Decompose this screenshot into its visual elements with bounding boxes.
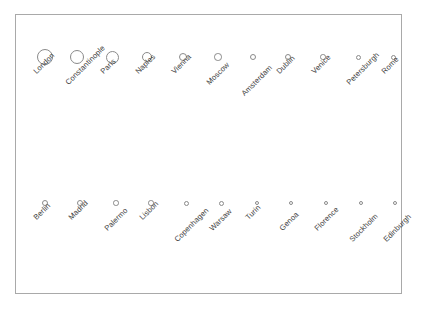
city-label-palermo: Palermo bbox=[103, 207, 129, 233]
city-label-lisbon: Lisbon bbox=[138, 200, 160, 222]
city-label-london: London bbox=[32, 52, 56, 76]
city-label-naples: Naples bbox=[134, 53, 157, 76]
city-label-moscow: Moscow bbox=[205, 61, 230, 86]
city-label-copenhagen: Copenhagen bbox=[173, 207, 210, 244]
city-label-vienna: Vienna bbox=[170, 53, 192, 75]
city-label-genoa: Genoa bbox=[278, 211, 300, 233]
city-label-amsterdam: Amsterdam bbox=[240, 64, 273, 97]
city-label-berlin: Berlin bbox=[32, 202, 52, 222]
labels-layer: LondonConstantinopleParisNaplesViennaMos… bbox=[16, 15, 401, 293]
city-label-dublin: Dublin bbox=[275, 54, 296, 75]
chart-canvas: LondonConstantinopleParisNaplesViennaMos… bbox=[0, 0, 422, 311]
city-label-stockholm: Stockholm bbox=[348, 212, 379, 243]
city-label-venice: Venice bbox=[310, 54, 332, 76]
city-label-paris: Paris bbox=[99, 58, 117, 76]
city-label-petersburgh: Petersburgh bbox=[345, 51, 380, 86]
city-label-warsaw: Warsaw bbox=[208, 207, 233, 232]
city-label-edinburgh: Edinburgh bbox=[382, 213, 412, 243]
city-label-constantinople: Constantinople bbox=[64, 44, 106, 86]
city-label-florence: Florence bbox=[313, 206, 340, 233]
city-label-rome: Rome bbox=[380, 56, 400, 76]
city-label-madrid: Madrid bbox=[67, 199, 89, 221]
city-label-turin: Turin bbox=[244, 204, 262, 222]
plot-frame: LondonConstantinopleParisNaplesViennaMos… bbox=[15, 14, 402, 294]
